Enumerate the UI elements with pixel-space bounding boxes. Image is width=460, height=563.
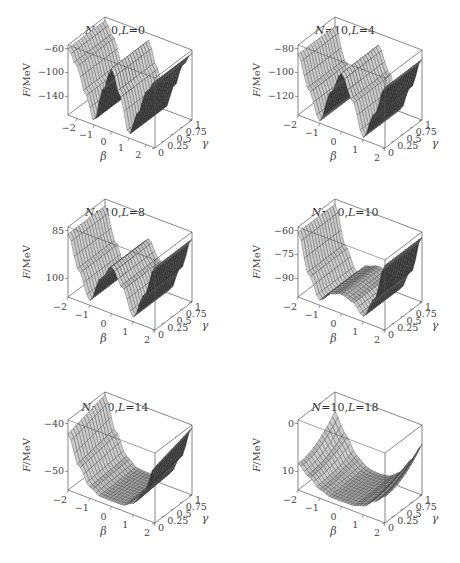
f-axis-ticks: −80−100−120	[268, 43, 298, 102]
gamma-axis-label: γ	[202, 319, 209, 332]
f-axis-ticks: −60−75−90	[274, 225, 298, 284]
gamma-axis-ticks: 00.250.50.751	[152, 494, 207, 533]
panel-L0: N=10,L=0 −2−1012β00.250.50.751γ−60−100−1…	[0, 0, 230, 188]
beta-tick-label: 1	[352, 326, 358, 337]
f-axis-label: F/MeV	[251, 244, 262, 279]
gamma-tick-label: 1	[195, 494, 201, 505]
beta-tick-label: 1	[118, 142, 124, 153]
surface-plot: −2−1012β00.250.50.751γ−80−100−120F/MeV	[230, 0, 460, 188]
beta-tick-label: 0	[330, 318, 336, 329]
gamma-tick-label: 1	[195, 119, 201, 130]
gamma-tick-label: 1	[425, 119, 431, 130]
f-tick-label: −140	[38, 90, 64, 101]
panel-L4: N=10,L=4 −2−1012β00.250.50.751γ−80−100−1…	[230, 0, 460, 188]
beta-tick-label: 1	[122, 519, 128, 530]
beta-tick-label: 0	[330, 136, 336, 147]
beta-tick-label: −2	[53, 494, 67, 505]
f-axis-ticks: −40−50	[44, 418, 68, 477]
f-axis-ticks: 85100	[46, 225, 68, 284]
f-tick-label: 0	[288, 418, 294, 429]
surface-plot: −2−1012β00.250.50.751γ85100F/MeV	[0, 188, 230, 376]
beta-axis-label: β	[329, 332, 336, 345]
f-tick-label: 85	[52, 225, 64, 236]
beta-tick-label: 1	[352, 519, 358, 530]
surface-mesh	[68, 21, 192, 134]
beta-tick-label: 2	[374, 527, 380, 538]
f-axis-ticks: 010	[282, 418, 298, 477]
beta-tick-label: −2	[62, 122, 76, 133]
beta-tick-label: 2	[144, 334, 150, 345]
panel-L10: N=10,L=10 −2−1012β00.250.50.751γ−60−75−9…	[230, 188, 460, 376]
gamma-axis-label: γ	[432, 319, 439, 332]
f-axis-label: F/MeV	[251, 437, 262, 472]
beta-tick-label: −1	[305, 502, 319, 513]
gamma-axis-ticks: 00.250.50.751	[152, 119, 207, 158]
f-tick-label: −60	[44, 43, 64, 54]
beta-tick-label: −2	[53, 301, 67, 312]
gamma-axis-label: γ	[432, 512, 439, 525]
gamma-tick-label: 0	[388, 329, 394, 340]
f-axis-label: F/MeV	[21, 437, 32, 472]
beta-tick-label: −1	[75, 309, 89, 320]
surface-mesh	[68, 395, 192, 506]
surface-plot: −2−1012β00.250.50.751γ−60−75−90F/MeV	[230, 188, 460, 376]
gamma-tick-label: 0	[158, 147, 164, 158]
gamma-tick-label: 1	[425, 301, 431, 312]
beta-axis-label: β	[329, 525, 336, 538]
gamma-axis-ticks: 00.250.50.751	[382, 494, 437, 533]
gamma-axis-label: γ	[202, 137, 209, 150]
gamma-tick-label: 0	[388, 147, 394, 158]
beta-tick-label: 2	[374, 152, 380, 163]
f-tick-label: −60	[274, 225, 294, 236]
surface-plot: −2−1012β00.250.50.751γ010F/MeV	[230, 375, 460, 563]
f-tick-label: −50	[44, 465, 64, 476]
beta-tick-label: 1	[122, 326, 128, 337]
surface-plot: −2−1012β00.250.50.751γ−40−50F/MeV	[0, 375, 230, 563]
beta-tick-label: 1	[352, 144, 358, 155]
panel-L14: N=10,L=14 −2−1012β00.250.50.751γ−40−50F/…	[0, 375, 230, 563]
f-tick-label: 10	[282, 465, 294, 476]
beta-axis-label: β	[99, 525, 106, 538]
surface-mesh	[298, 204, 422, 316]
f-tick-label: −120	[268, 90, 294, 101]
f-tick-label: 100	[46, 272, 64, 283]
f-axis-label: F/MeV	[251, 62, 262, 97]
beta-tick-label: −1	[305, 309, 319, 320]
gamma-tick-label: 0	[158, 329, 164, 340]
f-axis-label: F/MeV	[21, 62, 32, 97]
surface-mesh	[68, 206, 192, 317]
surface-plot: −2−1012β00.250.50.751γ−60−100−140F/MeV	[0, 0, 230, 188]
gamma-axis-ticks: 00.250.50.751	[382, 301, 437, 340]
f-tick-label: −40	[44, 418, 64, 429]
beta-tick-label: 0	[330, 511, 336, 522]
beta-tick-label: 0	[100, 511, 106, 522]
f-axis-ticks: −60−100−140	[38, 43, 68, 102]
f-tick-label: −80	[274, 43, 294, 54]
f-axis-label: F/MeV	[21, 244, 32, 279]
beta-axis-label: β	[329, 150, 336, 163]
gamma-tick-label: 1	[425, 494, 431, 505]
f-tick-label: −90	[274, 272, 294, 283]
f-tick-label: −100	[38, 66, 64, 77]
f-tick-label: −100	[268, 66, 294, 77]
beta-tick-label: −1	[75, 502, 89, 513]
beta-tick-label: 0	[100, 318, 106, 329]
beta-tick-label: 2	[374, 334, 380, 345]
beta-tick-label: 0	[100, 136, 106, 147]
gamma-tick-label: 1	[195, 301, 201, 312]
beta-tick-label: −2	[283, 119, 297, 130]
beta-tick-label: −2	[283, 301, 297, 312]
gamma-tick-label: 0	[158, 522, 164, 533]
beta-axis-label: β	[99, 332, 106, 345]
panel-L18: N=10,L=18 −2−1012β00.250.50.751γ010F/MeV	[230, 375, 460, 563]
gamma-axis-label: γ	[432, 137, 439, 150]
gamma-tick-label: 0	[388, 522, 394, 533]
panel-L8: N=10,L=8 −2−1012β00.250.50.751γ85100F/Me…	[0, 188, 230, 376]
gamma-axis-ticks: 00.250.50.751	[382, 119, 437, 158]
beta-tick-label: 2	[144, 527, 150, 538]
surface-mesh	[298, 411, 422, 506]
gamma-axis-label: γ	[202, 512, 209, 525]
f-tick-label: −75	[274, 248, 294, 259]
beta-tick-label: −2	[283, 494, 297, 505]
beta-tick-label: −1	[79, 129, 93, 140]
